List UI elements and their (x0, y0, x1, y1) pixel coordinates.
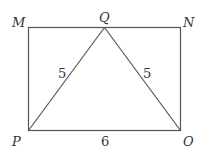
label-O: O (183, 134, 194, 149)
length-PQ: 5 (58, 66, 66, 81)
segment-PQ (29, 28, 105, 131)
label-Q: Q (99, 10, 110, 25)
length-PO: 6 (101, 134, 109, 149)
length-QO: 5 (143, 66, 151, 81)
label-N: N (182, 15, 195, 30)
label-P: P (11, 134, 21, 149)
label-M: M (11, 15, 26, 30)
rectangle-MNOP (29, 28, 181, 131)
geometry-diagram: M Q N P O 5 5 6 (0, 0, 199, 151)
